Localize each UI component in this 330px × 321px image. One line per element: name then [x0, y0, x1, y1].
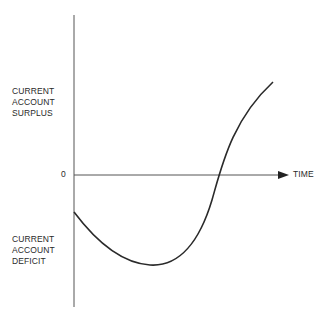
surplus-label-line-3: SURPLUS [12, 108, 55, 119]
deficit-label-line-2: ACCOUNT [12, 245, 55, 256]
deficit-label-line-3: DEFICIT [12, 256, 55, 267]
x-axis-arrow-icon [278, 171, 289, 179]
origin-label: 0 [61, 169, 66, 180]
deficit-label-line-1: CURRENT [12, 234, 55, 245]
surplus-label: CURRENT ACCOUNT SURPLUS [12, 86, 55, 119]
j-curve-line [74, 82, 273, 265]
j-curve-diagram [0, 0, 330, 321]
surplus-label-line-2: ACCOUNT [12, 97, 55, 108]
time-axis-label: TIME [293, 169, 314, 180]
surplus-label-line-1: CURRENT [12, 86, 55, 97]
deficit-label: CURRENT ACCOUNT DEFICIT [12, 234, 55, 267]
